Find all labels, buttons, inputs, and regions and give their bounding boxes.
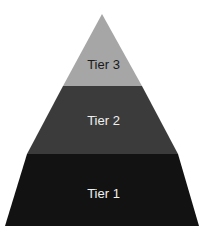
tier-3-label: Tier 3 [0,57,207,72]
tier-1-label: Tier 1 [0,186,207,201]
tier-3-segment [63,14,142,86]
tier-2-label: Tier 2 [0,113,207,128]
